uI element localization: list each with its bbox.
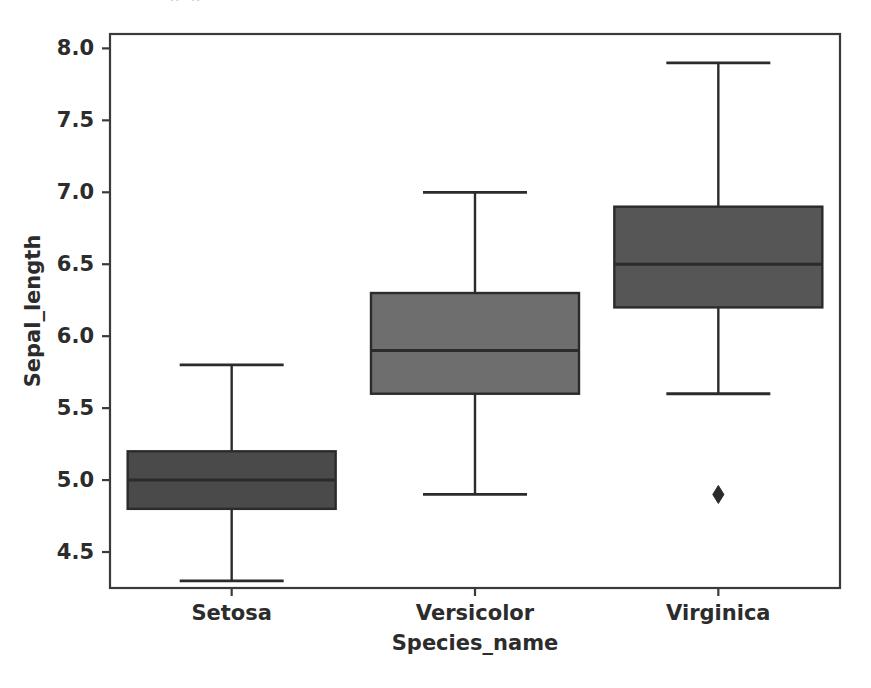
y-tick-label: 7.0	[57, 180, 94, 204]
box-iqr	[614, 207, 822, 308]
x-tick-label-versicolor: Versicolor	[416, 601, 535, 625]
y-tick-label: 4.5	[57, 540, 94, 564]
y-tick-label: 5.0	[57, 468, 94, 492]
y-tick-label: 7.5	[57, 108, 94, 132]
x-axis-title: Species_name	[392, 631, 559, 655]
box-iqr	[371, 293, 579, 394]
boxplot-figure: g p 4.55.05.56.06.57.07.58.0Sepal_length…	[0, 0, 871, 688]
outlier-marker	[713, 485, 724, 503]
x-tick-label-setosa: Setosa	[191, 601, 272, 625]
x-tick-label-virginica: Virginica	[666, 601, 770, 625]
y-tick-label: 5.5	[57, 396, 94, 420]
y-tick-label: 6.5	[57, 252, 94, 276]
boxplot-versicolor	[371, 192, 579, 494]
partial-text-above-figure: g p	[170, 0, 770, 1]
boxplot-svg: 4.55.05.56.06.57.07.58.0Sepal_lengthSeto…	[0, 0, 871, 688]
y-tick-label: 6.0	[57, 324, 94, 348]
y-tick-label: 8.0	[57, 36, 94, 60]
boxplot-setosa	[128, 365, 336, 581]
y-axis-title: Sepal_length	[21, 235, 45, 388]
boxplot-virginica	[614, 63, 822, 504]
